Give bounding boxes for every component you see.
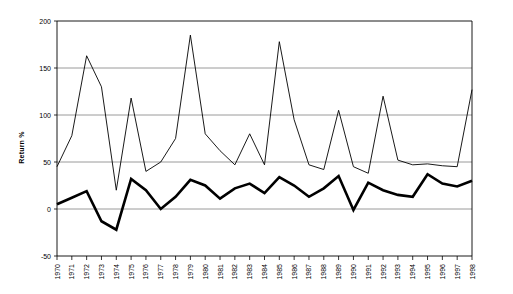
x-tick-label: 1994 (409, 264, 416, 280)
x-tick-labels-group: 1970197119721973197419751976197719781979… (54, 264, 476, 280)
x-tick-marks-group (57, 256, 472, 260)
x-tick-label: 1990 (350, 264, 357, 280)
x-tick-label: 1984 (261, 264, 268, 280)
x-tick-label: 1979 (187, 264, 194, 280)
x-tick-label: 1993 (394, 264, 401, 280)
x-tick-label: 1989 (335, 264, 342, 280)
gridlines-group (54, 21, 472, 256)
series-line-lower-thick-line (57, 174, 472, 229)
x-tick-label: 1997 (454, 264, 461, 280)
x-tick-label: 1973 (98, 264, 105, 280)
x-tick-label: 1976 (142, 264, 149, 280)
x-tick-label: 1975 (128, 264, 135, 280)
series-line-upper-thin-line (57, 35, 472, 190)
x-tick-label: 1988 (320, 264, 327, 280)
x-tick-label: 1991 (365, 264, 372, 280)
x-tick-label: 1978 (172, 264, 179, 280)
x-tick-label: 1972 (83, 264, 90, 280)
x-tick-label: 1987 (305, 264, 312, 280)
y-tick-label: 150 (39, 65, 51, 72)
line-chart: -50050100150200 197019711972197319741975… (0, 0, 513, 294)
y-tick-label: 100 (39, 112, 51, 119)
x-tick-label: 1981 (217, 264, 224, 280)
x-tick-label: 1996 (439, 264, 446, 280)
y-tick-label: 0 (47, 206, 51, 213)
y-tick-labels-group: -50050100150200 (39, 18, 51, 260)
x-tick-label: 1977 (157, 264, 164, 280)
x-tick-label: 1974 (113, 264, 120, 280)
y-tick-label: 200 (39, 18, 51, 25)
x-tick-label: 1983 (246, 264, 253, 280)
x-tick-label: 1980 (202, 264, 209, 280)
x-tick-label: 1982 (231, 264, 238, 280)
series-group (57, 35, 472, 230)
x-tick-label: 1998 (469, 264, 476, 280)
x-tick-label: 1986 (291, 264, 298, 280)
y-tick-label: 50 (43, 159, 51, 166)
x-tick-label: 1970 (54, 264, 61, 280)
y-tick-label: -50 (41, 253, 51, 260)
x-tick-label: 1992 (380, 264, 387, 280)
x-tick-label: 1995 (424, 264, 431, 280)
chart-container: Return % -50050100150200 197019711972197… (0, 0, 513, 294)
x-tick-label: 1985 (276, 264, 283, 280)
x-tick-label: 1971 (68, 264, 75, 280)
